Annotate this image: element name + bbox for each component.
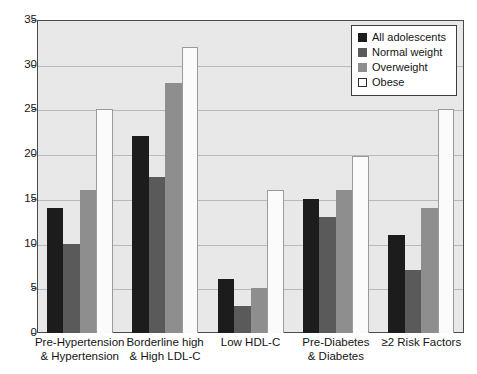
bar (80, 190, 97, 333)
y-tick-mark (32, 288, 36, 289)
x-tick-label: ≥2 Risk Factors (361, 336, 477, 350)
legend-label: Overweight (372, 62, 428, 73)
bar (63, 244, 80, 333)
y-tick-mark (32, 333, 36, 334)
bar (438, 109, 455, 333)
bar (149, 177, 166, 334)
legend-item: Normal weight (358, 45, 451, 60)
y-tick-mark (32, 199, 36, 200)
bar (352, 156, 369, 333)
bar (96, 109, 113, 333)
bar (319, 217, 336, 333)
bar-chart: 05101520253035 Pre-Hypertension& Hyperte… (0, 0, 477, 374)
bar (421, 208, 438, 333)
y-tick-mark (32, 244, 36, 245)
bar-group (218, 20, 284, 333)
bar (182, 47, 199, 333)
y-tick-mark (32, 154, 36, 155)
y-tick-mark (32, 20, 36, 21)
bar-group (47, 20, 113, 333)
bar (267, 190, 284, 333)
bar (132, 136, 149, 333)
bar (47, 208, 64, 333)
legend-item: Obese (358, 75, 451, 90)
legend-label: All adolescents (372, 32, 446, 43)
bar (303, 199, 320, 333)
bar (405, 270, 422, 333)
legend-swatch-normal-weight (358, 48, 367, 57)
bar (218, 279, 235, 333)
y-tick-mark (32, 109, 36, 110)
legend-item: All adolescents (358, 30, 451, 45)
legend-swatch-obese (358, 78, 367, 87)
legend-label: Normal weight (372, 47, 442, 58)
bar (251, 288, 268, 333)
bar-group (132, 20, 198, 333)
legend-swatch-overweight (358, 63, 367, 72)
bar (336, 190, 353, 333)
legend-label: Obese (372, 77, 404, 88)
y-axis: 05101520253035 (0, 0, 37, 374)
x-axis-labels: Pre-Hypertension& HypertensionBorderline… (37, 336, 464, 374)
bar (234, 306, 251, 333)
legend-item: Overweight (358, 60, 451, 75)
legend: All adolescents Normal weight Overweight… (351, 25, 457, 96)
bar (388, 235, 405, 333)
bar (165, 83, 182, 333)
legend-swatch-all-adolescents (358, 33, 367, 42)
y-tick-mark (32, 65, 36, 66)
